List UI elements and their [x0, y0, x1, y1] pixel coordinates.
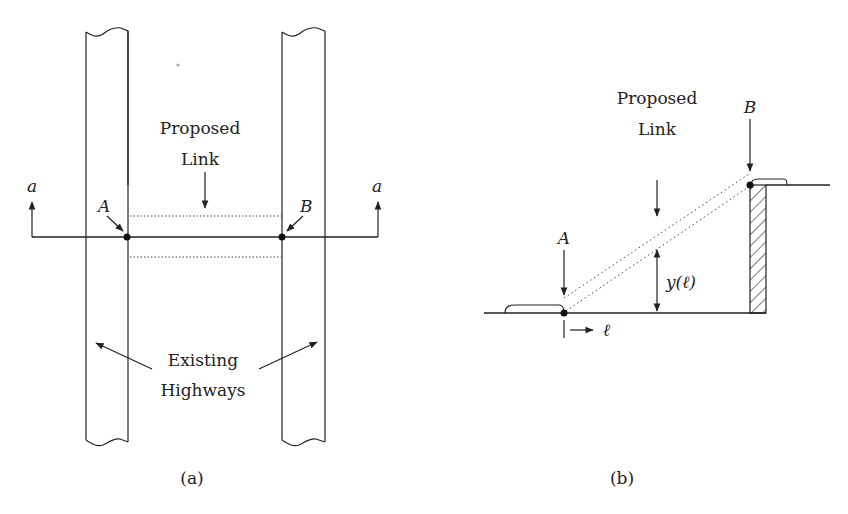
existing-label-line1: Existing — [168, 350, 238, 370]
point-b-dot — [747, 182, 754, 189]
point-a-dot — [124, 234, 131, 241]
road-a-surface — [505, 305, 564, 313]
point-a-label: A — [556, 228, 570, 248]
existing-arrow-right — [259, 342, 317, 369]
point-a-arrow — [107, 216, 123, 231]
point-b-label: B — [299, 196, 313, 216]
panel-a: a a A B Proposed Link Existing Highways … — [27, 28, 382, 488]
figure-canvas: a a A B Proposed Link Existing Highways … — [0, 0, 848, 514]
point-a-dot — [561, 310, 568, 317]
existing-label-line2: Highways — [160, 380, 245, 400]
proposed-link-bottom-dotted — [566, 186, 750, 311]
proposed-label-line2: Link — [181, 149, 220, 169]
point-b-label: B — [743, 97, 757, 117]
retaining-wall — [750, 185, 766, 313]
section-label-right: a — [372, 176, 382, 196]
speck — [176, 63, 179, 66]
caption-a: (a) — [180, 468, 203, 488]
distance-label: ℓ — [603, 320, 610, 340]
panel-b: A B Proposed Link y(ℓ) ℓ (b) — [484, 88, 830, 488]
proposed-label-line1: Proposed — [617, 88, 698, 108]
section-label-left: a — [27, 176, 37, 196]
point-b-dot — [279, 234, 286, 241]
point-b-arrow — [287, 216, 303, 231]
caption-b: (b) — [610, 468, 634, 488]
proposed-label-line1: Proposed — [160, 118, 241, 138]
point-a-label: A — [96, 196, 110, 216]
proposed-label-line2: Link — [638, 119, 677, 139]
height-label: y(ℓ) — [665, 272, 696, 292]
existing-arrow-left — [96, 343, 152, 369]
road-b-surface — [751, 179, 787, 185]
